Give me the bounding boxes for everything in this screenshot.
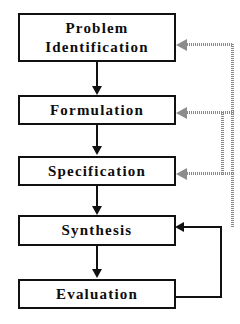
feedback-line-into-synthesis bbox=[184, 226, 222, 228]
feedback-line-evaluation-riser bbox=[220, 226, 222, 298]
feedback-line-evaluation-exit bbox=[175, 296, 222, 298]
feedback-arrowhead-formulation bbox=[176, 107, 187, 119]
node-problem-identification[interactable]: Problem Identification bbox=[18, 13, 176, 62]
feedback-line-to-problem bbox=[185, 43, 233, 46]
feedback-arrowhead-problem bbox=[176, 39, 187, 51]
node-evaluation[interactable]: Evaluation bbox=[18, 279, 176, 309]
feedback-trunk-inner bbox=[221, 112, 224, 175]
arrowhead-specification bbox=[92, 146, 102, 155]
feedback-trunk-outer bbox=[231, 44, 234, 228]
node-synthesis[interactable]: Synthesis bbox=[18, 215, 176, 246]
node-label-problem-identification: Problem Identification bbox=[45, 19, 148, 57]
arrowhead-synthesis-feedback bbox=[175, 222, 184, 232]
node-label-specification: Specification bbox=[48, 162, 146, 181]
arrowhead-synthesis bbox=[92, 206, 102, 215]
node-label-synthesis: Synthesis bbox=[62, 221, 133, 240]
arrowhead-formulation bbox=[92, 86, 102, 95]
feedback-line-to-specification bbox=[185, 172, 234, 175]
connector-problem-to-formulation bbox=[96, 62, 98, 87]
node-formulation[interactable]: Formulation bbox=[18, 95, 176, 125]
connector-specification-to-synthesis bbox=[96, 186, 98, 207]
feedback-line-to-formulation bbox=[185, 111, 234, 114]
node-specification[interactable]: Specification bbox=[18, 156, 176, 186]
arrowhead-evaluation bbox=[92, 269, 102, 278]
connector-synthesis-to-evaluation bbox=[96, 246, 98, 270]
node-label-formulation: Formulation bbox=[50, 101, 144, 120]
feedback-arrowhead-specification bbox=[176, 168, 187, 180]
node-label-evaluation: Evaluation bbox=[56, 285, 138, 304]
flowchart-canvas: Problem Identification Formulation Speci… bbox=[0, 0, 240, 324]
connector-formulation-to-specification bbox=[96, 125, 98, 147]
